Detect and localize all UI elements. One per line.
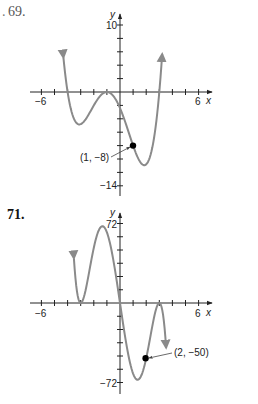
graph-71: (2, −50) y x −6 6 72 −72 <box>0 200 258 404</box>
x-axis-label: x <box>205 95 212 106</box>
x-axis-label: x <box>205 307 212 318</box>
x-min-label: −6 <box>35 96 47 107</box>
x-max-label: 6 <box>195 308 201 319</box>
y-min-label: −14 <box>100 180 117 191</box>
x-min-label: −6 <box>35 308 47 319</box>
graph-69: (1, −8) y x −6 6 10 −14 <box>0 0 258 200</box>
point-label: (2, −50) <box>174 347 209 358</box>
point-marker <box>130 142 136 148</box>
y-axis-label: y <box>109 207 116 218</box>
point-label: (1, −8) <box>80 152 109 163</box>
y-min-label: −72 <box>100 378 117 389</box>
annotation-leader <box>149 353 172 358</box>
y-max-label: 10 <box>106 20 118 31</box>
point-marker <box>142 355 148 361</box>
y-axis-label: y <box>109 9 116 20</box>
y-max-label: 72 <box>106 219 118 230</box>
function-curve <box>63 54 162 165</box>
x-max-label: 6 <box>195 96 201 107</box>
